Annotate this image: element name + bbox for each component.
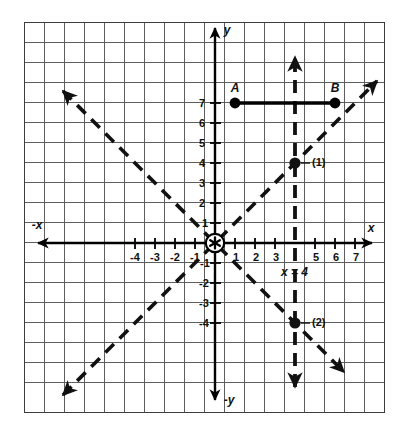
origin-marker <box>206 234 224 252</box>
axis-label-positive-y: y <box>224 24 231 36</box>
y-tick-label--4: -4 <box>199 318 209 329</box>
axis-label-negative-x: -x <box>32 219 43 231</box>
x-tick-label-5: 5 <box>313 252 319 263</box>
y-tick-label-7: 7 <box>199 98 205 109</box>
figure-canvas: -x x y -y -4 -3 -2 -1 1 2 3 5 6 7 7 6 5 … <box>0 0 413 436</box>
x-tick-label-2: 2 <box>253 252 259 263</box>
x-tick-label-3: 3 <box>273 252 279 263</box>
x-tick-label-7: 7 <box>353 252 359 263</box>
axis-label-positive-x: x <box>368 222 375 234</box>
y-tick-label-3: 3 <box>199 178 205 189</box>
axis-label-negative-y: -y <box>224 394 235 406</box>
y-tick-label-1: 1 <box>202 218 208 229</box>
y-tick-label-2: 2 <box>199 198 205 209</box>
x-tick-label-1: 1 <box>233 252 239 263</box>
y-tick-label--2: -2 <box>199 278 209 289</box>
y-tick-label--3: -3 <box>199 298 209 309</box>
point-a-label: A <box>231 82 240 94</box>
point-b-label: B <box>331 82 340 94</box>
x-tick-label--1: -1 <box>190 252 200 263</box>
y-tick-label--1: -1 <box>200 258 210 269</box>
x-tick-label-6: 6 <box>333 252 339 263</box>
x-tick-label--4: -4 <box>130 252 140 263</box>
x-tick-label--2: -2 <box>170 252 180 263</box>
point-intersection-1-marker <box>289 157 300 168</box>
point-b-marker <box>330 98 341 109</box>
y-tick-label-4: 4 <box>199 158 205 169</box>
callout-label-2: (2) <box>312 317 325 328</box>
y-tick-label-5: 5 <box>199 138 205 149</box>
equation-label-x-equals-4: x = 4 <box>281 266 308 278</box>
x-tick-label--3: -3 <box>150 252 160 263</box>
callout-label-1: (1) <box>312 157 325 168</box>
point-a-marker <box>230 98 241 109</box>
point-intersection-2-marker <box>289 317 300 328</box>
y-tick-label-6: 6 <box>199 118 205 129</box>
